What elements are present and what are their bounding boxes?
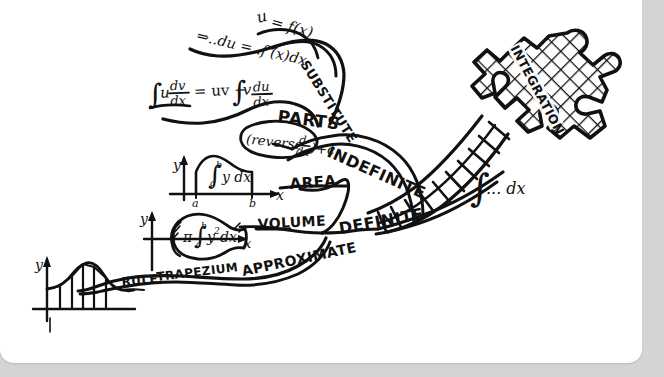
note-dx: dx [295, 145, 310, 159]
area-y-label: y [172, 157, 182, 173]
volume-dx: dx [220, 229, 237, 245]
trapezium-y-label: y [34, 257, 44, 273]
note-close: )+c [309, 139, 336, 158]
area-x-label: x [276, 187, 284, 203]
node-volume[interactable]: VOLUME [257, 212, 326, 232]
trapezium-base-left [47, 286, 60, 289]
label-area: AREA [289, 172, 337, 193]
formula-parts: ∫ u dv dx = uv − ∫ v du dx [147, 74, 272, 113]
area-lower-limit: a [210, 177, 216, 188]
root-notation-rest: ... dx [486, 179, 526, 198]
root-node-puzzle[interactable]: INTEGRATION [460, 21, 640, 161]
parts-dv: dv [169, 78, 186, 94]
puzzle-hatch-fill [460, 21, 640, 161]
puzzle-tail-rung-5 [446, 172, 464, 191]
area-tick-a-label: a [192, 197, 199, 210]
volume-y-label: y [139, 211, 149, 227]
screenshot-root: INTEGRATION [0, 0, 664, 377]
volume-square: 2 [213, 226, 220, 236]
substitute-eq: = f(x) [269, 13, 315, 42]
volume-pi: π [182, 229, 193, 245]
sketch-trapezium: y [33, 256, 135, 321]
puzzle-tail-rung-3 [469, 149, 489, 166]
formula-substitute: u = f(x) ⇒..du =..f'(x)dx [195, 6, 315, 68]
mind-map-canvas: INTEGRATION [0, 0, 642, 363]
root-notation: ∫ ... dx [470, 166, 526, 210]
whiteboard-card: INTEGRATION [0, 0, 642, 363]
parts-v: v [243, 80, 253, 98]
area-integrand: y dx [221, 169, 251, 185]
parts-dx-2: dx [253, 94, 270, 110]
area-tick-b-label: b [249, 197, 256, 210]
parts-du: du [253, 79, 270, 95]
label-rule: RULE [121, 272, 159, 289]
node-area[interactable]: AREA [289, 172, 337, 193]
parts-dx-1: dx [170, 93, 187, 109]
volume-y-arrow [148, 211, 156, 221]
puzzle-tail-rung-2 [479, 136, 499, 153]
area-y-arrow [180, 155, 188, 165]
parts-u: u [160, 83, 170, 101]
trapezium-y-arrow [43, 256, 51, 267]
substitute-u: u [254, 6, 269, 27]
label-trapezium: TRAPEZIUM [156, 260, 239, 284]
note-open: (reverse [245, 131, 303, 153]
label-volume: VOLUME [257, 212, 326, 232]
sketch-area: y x a b ∫ b a y dx [170, 155, 284, 210]
volume-lower-limit: a [196, 239, 201, 249]
